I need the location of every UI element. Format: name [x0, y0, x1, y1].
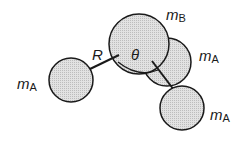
label-bond-length: R: [92, 46, 103, 63]
atom-a-left: [49, 58, 93, 102]
label-m-b: mB: [166, 6, 186, 24]
atom-b-central: [109, 14, 169, 74]
atom-a-lower-right: [160, 86, 204, 130]
molecule-diagram: mB mA mA mA R θ: [0, 0, 245, 148]
label-m-a-right: mA: [199, 47, 220, 65]
label-m-a-left: mA: [17, 75, 38, 93]
label-m-a-lower-right: mA: [210, 106, 231, 124]
label-angle: θ: [131, 46, 139, 63]
